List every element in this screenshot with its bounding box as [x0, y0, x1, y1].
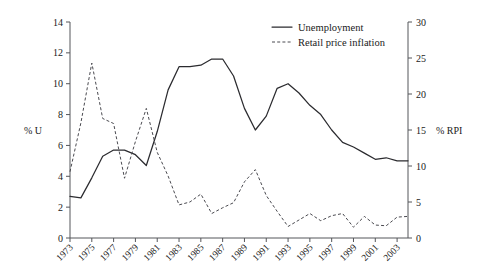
- x-tick-label: 1991: [251, 242, 272, 263]
- x-tick-label: 1975: [76, 242, 97, 263]
- y-tick-label-left: 12: [53, 47, 63, 58]
- y-tick-label-right: 25: [416, 53, 426, 64]
- y-tick-label-left: 8: [58, 109, 63, 120]
- x-tick-label: 1993: [272, 242, 293, 263]
- axes: [70, 22, 408, 238]
- legend: UnemploymentRetail price inflation: [272, 22, 386, 48]
- x-tick-label: 1987: [207, 242, 228, 263]
- y-axis-left-ticks: 02468101214: [53, 17, 70, 244]
- y-tick-label-left: 2: [58, 202, 63, 213]
- x-tick-label: 2001: [360, 242, 381, 263]
- y-tick-label-right: 15: [416, 125, 426, 136]
- x-tick-label: 1973: [54, 242, 75, 263]
- series-group: [70, 59, 408, 227]
- y-axis-title-left: % U: [24, 125, 43, 136]
- series-line-unemployment: [70, 59, 408, 198]
- y-tick-label-left: 10: [53, 78, 63, 89]
- x-tick-label: 1995: [294, 242, 315, 263]
- y-tick-label-left: 4: [58, 171, 63, 182]
- x-tick-label: 1985: [185, 242, 206, 263]
- y-axis-title-right: % RPI: [436, 125, 462, 136]
- x-tick-label: 1997: [316, 242, 337, 263]
- y-tick-label-left: 6: [58, 140, 63, 151]
- chart-container: 02468101214051015202530% U% RPI197319751…: [0, 0, 479, 280]
- y-tick-label-right: 10: [416, 161, 426, 172]
- y-tick-label-right: 20: [416, 89, 426, 100]
- x-axis-ticks: 1973197519771979198119831985198719891991…: [54, 238, 402, 263]
- legend-label-1: Unemployment: [298, 22, 363, 33]
- line-chart: 02468101214051015202530% U% RPI197319751…: [0, 0, 479, 280]
- y-tick-label-right: 0: [416, 233, 421, 244]
- y-axis-right-ticks: 051015202530: [408, 17, 426, 244]
- y-tick-label-left: 14: [53, 17, 63, 28]
- y-tick-label-right: 5: [416, 197, 421, 208]
- x-tick-label: 1977: [98, 242, 119, 263]
- y-tick-label-right: 30: [416, 17, 426, 28]
- x-tick-label: 1983: [163, 242, 184, 263]
- y-tick-label-left: 0: [58, 233, 63, 244]
- x-tick-label: 1979: [120, 242, 141, 263]
- x-tick-label: 1989: [229, 242, 250, 263]
- x-tick-label: 2003: [382, 242, 403, 263]
- x-tick-label: 1981: [142, 242, 163, 263]
- legend-label-2: Retail price inflation: [298, 37, 386, 48]
- series-line-retail-price-inflation: [70, 63, 408, 227]
- x-tick-label: 1999: [338, 242, 359, 263]
